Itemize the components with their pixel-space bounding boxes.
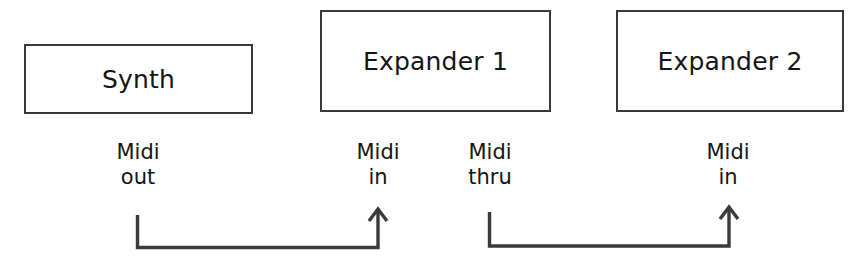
device-box-synth: Synth [24,44,253,114]
device-box-expander-1: Expander 1 [320,10,551,112]
cable-1-arrowhead-icon [369,209,387,221]
device-label-expander-1: Expander 1 [363,47,508,76]
cable-1-path [138,211,379,248]
port-label-midi-out-line1: Midi [116,140,159,165]
device-label-synth: Synth [102,65,175,94]
port-label-midi-in-2: Midi in [706,140,749,190]
device-label-expander-2: Expander 2 [657,47,802,76]
device-box-expander-2: Expander 2 [616,10,844,112]
port-label-midi-thru-line1: Midi [468,140,512,165]
port-label-midi-out: Midi out [116,140,159,190]
port-label-midi-in-1-line1: Midi [356,140,399,165]
port-label-midi-in-2-line2: in [706,165,749,190]
port-label-midi-thru-line2: thru [468,165,512,190]
midi-chain-diagram: Synth Expander 1 Expander 2 Midi out Mid… [0,0,860,262]
port-label-midi-thru: Midi thru [468,140,512,190]
port-label-midi-in-1-line2: in [356,165,399,190]
port-label-midi-out-line2: out [116,165,159,190]
cable-2-path [490,209,730,246]
port-label-midi-in-2-line1: Midi [706,140,749,165]
cable-2-arrowhead-icon [720,207,738,219]
port-label-midi-in-1: Midi in [356,140,399,190]
